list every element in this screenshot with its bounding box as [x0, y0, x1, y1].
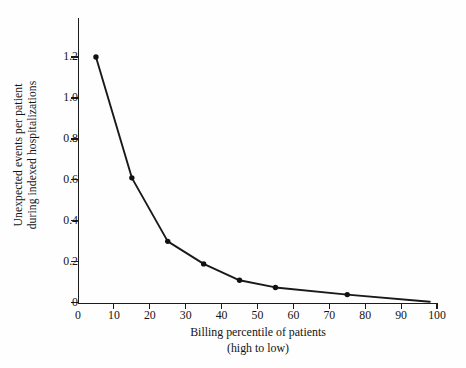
data-point-marker: [237, 278, 242, 283]
x-axis-title: Billing percentile of patients (high to …: [78, 325, 438, 356]
chart-figure: Unexpected events per patient during ind…: [0, 0, 466, 368]
data-point-marker: [201, 261, 206, 266]
x-axis-title-line2: (high to low): [78, 341, 438, 357]
data-point-marker: [129, 175, 134, 180]
data-point-marker: [345, 292, 350, 297]
data-point-marker: [165, 239, 170, 244]
data-markers: [93, 54, 350, 297]
data-line: [96, 57, 430, 302]
data-point-marker: [93, 54, 98, 59]
x-axis-title-line1: Billing percentile of patients: [78, 325, 438, 341]
data-point-marker: [273, 285, 278, 290]
data-series-layer: [0, 0, 466, 368]
